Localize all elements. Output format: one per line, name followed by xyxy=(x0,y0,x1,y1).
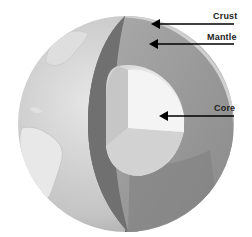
core-label: Core xyxy=(214,103,235,113)
mantle-label: Mantle xyxy=(207,32,237,42)
crust-label: Crust xyxy=(213,11,238,21)
earth-layers-diagram: Crust Mantle Core xyxy=(0,0,252,237)
